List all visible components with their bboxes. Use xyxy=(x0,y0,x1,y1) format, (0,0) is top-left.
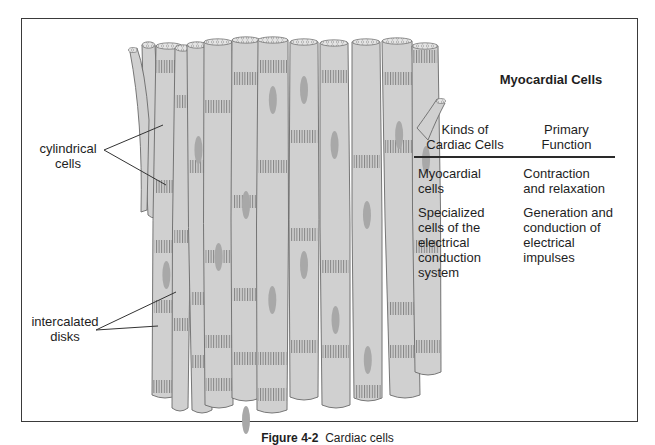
label-line: intercalated xyxy=(27,314,103,329)
intercalated-disk xyxy=(355,385,381,398)
nucleus xyxy=(242,406,250,434)
cell-function: Contraction and relaxation xyxy=(514,166,615,196)
fiber-cross-section xyxy=(352,39,380,45)
fiber-cross-section xyxy=(129,48,138,53)
nucleus xyxy=(194,136,202,164)
header-line: Primary xyxy=(518,122,615,137)
cell-line: and relaxation xyxy=(523,181,615,196)
table-title: Myocardial Cells xyxy=(486,72,616,87)
intercalated-disk xyxy=(322,260,348,273)
intercalated-disk xyxy=(322,345,348,358)
intercalated-disk xyxy=(233,288,259,301)
cell-line: conduction xyxy=(418,250,514,265)
intercalated-disk xyxy=(384,72,412,85)
label-line: cylindrical xyxy=(33,141,103,156)
nucleus xyxy=(300,251,308,279)
label-intercalated-disks: intercalated disks xyxy=(27,314,103,344)
nucleus xyxy=(331,131,339,159)
fiber-cross-section xyxy=(142,42,155,48)
intercalated-disk xyxy=(258,160,286,173)
header-line: Kinds of xyxy=(414,122,516,137)
table-row: Specialized cells of the electrical cond… xyxy=(414,205,615,280)
intercalated-disk xyxy=(206,335,232,348)
intercalated-disk xyxy=(174,318,188,331)
cell-function: Generation and conduction of electrical … xyxy=(514,205,615,280)
cell-types-table: Kinds of Cardiac Cells Primary Function … xyxy=(414,122,615,280)
cell-line: Myocardial xyxy=(418,166,514,181)
cell-line: cells xyxy=(418,181,514,196)
intercalated-disk xyxy=(205,100,231,113)
fiber-cross-section xyxy=(382,38,412,44)
table-row: Myocardial cells Contraction and relaxat… xyxy=(414,166,615,196)
intercalated-disk xyxy=(174,230,188,243)
intercalated-disk xyxy=(390,345,418,358)
caption-text: Cardiac cells xyxy=(325,431,394,445)
intercalated-disk xyxy=(413,50,437,63)
intercalated-disk xyxy=(233,352,259,365)
fiber-cross-section xyxy=(290,39,318,45)
intercalated-disk xyxy=(258,352,286,365)
cell-line: Specialized xyxy=(418,205,514,220)
header-line: Function xyxy=(518,137,615,152)
nucleus xyxy=(242,191,250,219)
muscle-fiber xyxy=(203,42,233,408)
cell-line: cells of the xyxy=(418,220,514,235)
fiber-cross-section xyxy=(412,43,438,49)
intercalated-disk xyxy=(206,378,232,391)
nucleus xyxy=(162,261,170,289)
cell-line: electrical xyxy=(418,235,514,250)
fiber-cross-section xyxy=(232,37,260,43)
cell-kind: Specialized cells of the electrical cond… xyxy=(414,205,514,280)
leader-intercalated-bottom xyxy=(96,326,158,330)
label-line: disks xyxy=(27,329,103,344)
intercalated-disk xyxy=(291,228,317,241)
nucleus xyxy=(300,76,308,104)
nucleus xyxy=(364,346,372,374)
intercalated-disk xyxy=(291,130,317,143)
table-header: Kinds of Cardiac Cells Primary Function xyxy=(414,122,615,156)
header-line: Cardiac Cells xyxy=(414,137,516,152)
caption-label: Figure 4-2 xyxy=(261,431,318,445)
cell-line: impulses xyxy=(523,250,615,265)
nucleus xyxy=(268,286,276,314)
header-function: Primary Function xyxy=(516,122,615,156)
cell-line: Generation and xyxy=(523,205,615,220)
nucleus xyxy=(363,201,371,229)
fiber-cross-section xyxy=(204,39,232,45)
cell-kind: Myocardial cells xyxy=(414,166,514,196)
fiber-cross-section xyxy=(437,99,446,104)
cell-line: conduction of xyxy=(523,220,615,235)
figure-caption: Figure 4-2 Cardiac cells xyxy=(0,431,655,445)
intercalated-disk xyxy=(353,155,379,168)
nucleus xyxy=(269,86,277,114)
intercalated-disk xyxy=(233,72,259,85)
cell-line: system xyxy=(418,265,514,280)
fiber-cross-section xyxy=(320,40,348,46)
intercalated-disk xyxy=(389,302,417,315)
cell-line: electrical xyxy=(523,235,615,250)
intercalated-disk xyxy=(258,388,286,401)
intercalated-disk xyxy=(416,340,440,353)
label-line: cells xyxy=(33,156,103,171)
header-rule xyxy=(414,156,615,158)
header-kinds: Kinds of Cardiac Cells xyxy=(414,122,516,156)
intercalated-disk xyxy=(259,60,287,73)
fiber-cross-section xyxy=(258,37,288,43)
nucleus xyxy=(395,121,403,149)
cell-line: Contraction xyxy=(523,166,615,181)
nucleus xyxy=(215,243,223,271)
intercalated-disk xyxy=(291,340,317,353)
intercalated-disk xyxy=(321,70,347,83)
label-cylindrical-cells: cylindrical cells xyxy=(33,141,103,171)
nucleus xyxy=(332,306,340,334)
